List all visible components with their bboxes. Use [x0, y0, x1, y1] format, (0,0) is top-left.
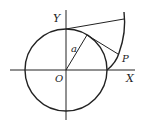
y-axis-label: Y	[53, 12, 62, 25]
top-tangent-line	[66, 19, 124, 29]
involute-diagram: Y X O a P	[0, 0, 143, 125]
point-p-label: P	[121, 53, 129, 64]
origin-label: O	[55, 73, 63, 84]
radius-label: a	[71, 43, 77, 54]
x-axis-label: X	[125, 72, 135, 85]
